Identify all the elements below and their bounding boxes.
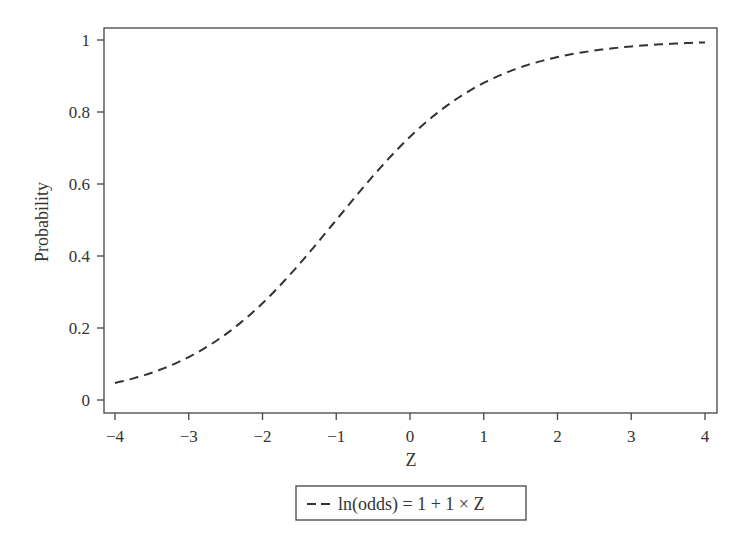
x-tick-label: −4 xyxy=(106,427,125,446)
plot-frame xyxy=(104,28,717,413)
y-axis: 00.20.40.60.81 xyxy=(69,31,104,410)
y-tick-label: 0.6 xyxy=(69,175,90,194)
x-axis-title: Z xyxy=(406,450,417,470)
x-axis: −4−3−2−101234 xyxy=(106,413,710,446)
y-tick-label: 0 xyxy=(82,391,91,410)
y-tick-label: 0.4 xyxy=(69,247,91,266)
x-tick-label: −1 xyxy=(327,427,345,446)
x-tick-label: 0 xyxy=(406,427,415,446)
x-tick-label: 4 xyxy=(701,427,710,446)
x-tick-label: −2 xyxy=(253,427,271,446)
legend-label: ln(odds) = 1 + 1 × Z xyxy=(338,494,484,515)
y-tick-label: 0.8 xyxy=(69,103,90,122)
y-tick-label: 0.2 xyxy=(69,319,90,338)
x-tick-label: 1 xyxy=(480,427,489,446)
x-tick-label: 2 xyxy=(553,427,562,446)
x-tick-label: 3 xyxy=(627,427,636,446)
chart: 00.20.40.60.81 −4−3−2−101234 Z Probabili… xyxy=(0,0,744,554)
y-tick-label: 1 xyxy=(82,31,91,50)
y-axis-title: Probability xyxy=(32,182,52,262)
legend: ln(odds) = 1 + 1 × Z xyxy=(296,486,526,520)
data-series-line xyxy=(115,42,705,383)
x-tick-label: −3 xyxy=(180,427,198,446)
